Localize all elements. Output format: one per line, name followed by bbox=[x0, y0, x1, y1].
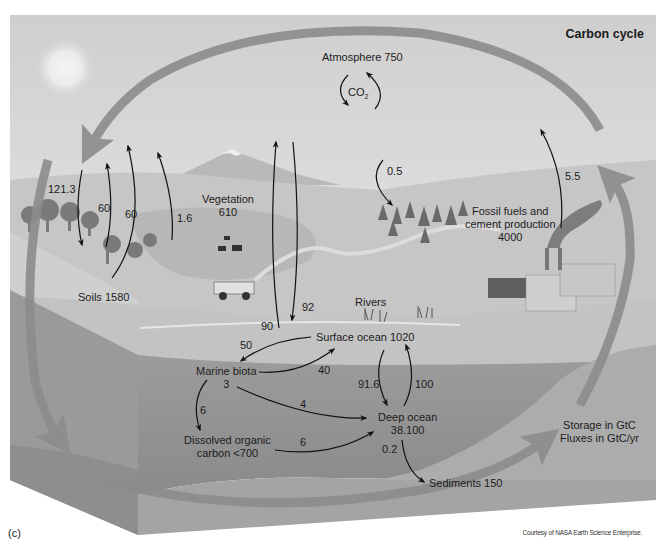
flux-atm-to-land: 121.3 bbox=[48, 183, 76, 196]
flux-biota-to-doc: 6 bbox=[200, 404, 206, 417]
reservoir-sediments: Sediments 150 bbox=[429, 477, 502, 490]
flux-biota-to-deep: 4 bbox=[300, 398, 306, 411]
flux-land-to-atm-a: 60 bbox=[98, 202, 110, 215]
flux-atm-to-ocean: 92 bbox=[302, 301, 314, 314]
reservoir-deep-ocean: Deep ocean 38.100 bbox=[378, 411, 437, 437]
flux-landuse: 1.6 bbox=[177, 212, 192, 225]
co2-label: CO2 bbox=[348, 86, 368, 100]
reservoir-marine-biota: Marine biota 3 bbox=[196, 365, 257, 391]
reservoir-doc: Dissolved organic carbon <700 bbox=[184, 434, 271, 460]
image-credit: Courtesy of NASA Earth Science Enterpris… bbox=[523, 529, 643, 536]
sun-icon bbox=[35, 38, 95, 98]
flux-land-to-atm-b: 60 bbox=[125, 208, 137, 221]
carbon-cycle-diagram bbox=[0, 0, 666, 548]
flux-atm-to-forest: 0.5 bbox=[387, 165, 402, 178]
reservoir-vegetation: Vegetation 610 bbox=[202, 193, 254, 219]
flux-fossil-emission: 5.5 bbox=[565, 170, 580, 183]
sea-floor bbox=[138, 478, 656, 535]
flux-deep-to-sediments: 0.2 bbox=[382, 443, 397, 456]
legend-units: Storage in GtC Fluxes in GtC/yr bbox=[560, 419, 639, 445]
reservoir-fossil-fuels: Fossil fuels and cement production 4000 bbox=[465, 205, 556, 244]
flux-surface-to-deep: 91.6 bbox=[358, 378, 379, 391]
reservoir-rivers: Rivers bbox=[355, 296, 386, 309]
panel-label: (c) bbox=[8, 527, 21, 539]
flux-deep-to-surface: 100 bbox=[415, 378, 433, 391]
reservoir-atmosphere: Atmosphere 750 bbox=[322, 51, 403, 64]
reservoir-surface-ocean: Surface ocean 1020 bbox=[316, 331, 414, 344]
reservoir-soils: Soils 1580 bbox=[78, 291, 129, 304]
flux-surface-to-biota: 50 bbox=[240, 339, 252, 352]
flux-biota-to-surface: 40 bbox=[318, 364, 330, 377]
flux-doc-to-deep: 6 bbox=[300, 436, 306, 449]
diagram-title: Carbon cycle bbox=[565, 27, 644, 41]
flux-ocean-to-atm: 90 bbox=[261, 320, 273, 333]
